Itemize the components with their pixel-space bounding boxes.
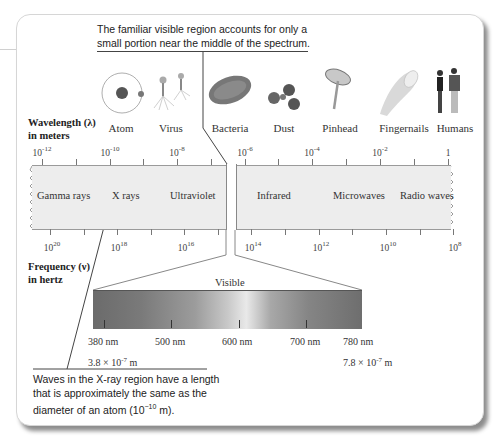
- frequency-tick-label: 1018: [99, 240, 139, 253]
- x-ray-callout: Waves in the X-ray region have a length …: [33, 372, 219, 417]
- tick-mark: [453, 229, 454, 235]
- tick-mark: [319, 229, 320, 235]
- spectrum-band: [32, 165, 451, 230]
- frequency-tick-label: 1016: [166, 240, 206, 253]
- tick-mark: [50, 229, 51, 235]
- axis-title-line: Wavelength (λ): [28, 116, 96, 129]
- visible-title: Visible: [215, 277, 245, 288]
- axis-title-line: Frequency (ν): [28, 260, 90, 273]
- nm-label-380: 380 nm: [88, 336, 118, 347]
- tick-mark: [386, 229, 387, 235]
- bacteria-icon: [206, 72, 254, 108]
- tick-mark: [352, 229, 353, 235]
- callout-line: that is approximately the same as the: [33, 386, 219, 400]
- region-ultraviolet: Ultraviolet: [170, 190, 216, 201]
- tick-mark: [117, 229, 118, 235]
- visible-tick: [104, 320, 105, 328]
- visible-slice: [226, 164, 237, 230]
- virus-icon: [150, 70, 192, 112]
- tick-mark: [151, 229, 152, 235]
- wavelength-tick-label: 10-4: [292, 145, 332, 158]
- visible-spectrum-bar: [93, 290, 362, 329]
- frequency-tick-label: 1014: [233, 240, 273, 253]
- tick-mark: [285, 229, 286, 235]
- nm-label-700: 700 nm: [290, 336, 320, 347]
- nm-label-600: 600 nm: [222, 336, 252, 347]
- region-radio-waves: Radio waves: [400, 190, 454, 201]
- tick-mark: [218, 229, 219, 235]
- axis-title-line: in hertz: [28, 273, 90, 286]
- dust-icon: [265, 82, 305, 112]
- frequency-tick-label: 108: [435, 240, 475, 253]
- frequency-axis-title: Frequency (ν) in hertz: [28, 260, 90, 286]
- wavelength-tick-label: 10-2: [360, 145, 400, 158]
- atom-icon: [100, 70, 146, 116]
- nm-label-500: 500 nm: [155, 336, 185, 347]
- axis-title-line: in meters: [28, 129, 96, 142]
- wavelength-tick-label: 10-8: [157, 145, 197, 158]
- wavelength-tick-label: 1: [428, 145, 468, 158]
- visible-max-meters: 7.8 × 10-7 m: [343, 356, 392, 368]
- region-microwaves: Microwaves: [333, 190, 385, 201]
- object-label-humans: Humans: [420, 122, 490, 134]
- region-gamma-rays: Gamma rays: [37, 190, 90, 201]
- visible-tick: [239, 320, 240, 328]
- region-x-rays: X rays: [112, 190, 140, 201]
- frequency-tick-label: 1020: [32, 240, 72, 253]
- tick-mark: [251, 229, 252, 235]
- callout-line: Waves in the X-ray region have a length: [33, 372, 219, 386]
- object-label-pinhead: Pinhead: [305, 122, 375, 134]
- fingernail-icon: [375, 68, 421, 116]
- tick-mark: [420, 229, 421, 235]
- pinhead-icon: [323, 67, 357, 113]
- visible-tick: [171, 320, 172, 328]
- nm-label-780: 780 nm: [343, 336, 373, 347]
- callout-line: diameter of an atom (10−10 m).: [33, 400, 219, 417]
- tick-mark: [84, 229, 85, 235]
- tick-mark: [184, 229, 185, 235]
- humans-icon: [432, 67, 468, 117]
- frequency-tick-label: 1012: [301, 240, 341, 253]
- wavelength-tick-label: 10-6: [225, 145, 265, 158]
- wavelength-tick-label: 10-10: [90, 145, 130, 158]
- frequency-tick-label: 1010: [368, 240, 408, 253]
- region-infrared: Infrared: [257, 190, 291, 201]
- wavelength-axis-title: Wavelength (λ) in meters: [28, 116, 96, 142]
- visible-min-meters: 3.8 × 10-7 m: [88, 356, 137, 368]
- visible-tick: [306, 320, 307, 328]
- wavelength-tick-label: 10-12: [22, 145, 62, 158]
